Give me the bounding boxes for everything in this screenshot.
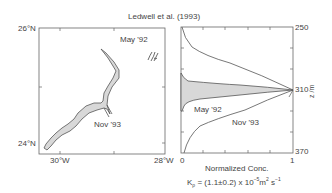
caption-exp3: −1 (275, 176, 281, 182)
nov93-profile-label: Nov '93 (232, 119, 259, 127)
x0-label: 0 (180, 157, 184, 165)
profile-panel (181, 27, 293, 153)
nov93-map-label: Nov '93 (94, 121, 121, 129)
may92-map-label: May '92 (120, 36, 148, 44)
lon-left-label: 30°W (50, 157, 70, 165)
z310-label: 310 (295, 86, 308, 94)
x-axis-label: Normalized Conc. (205, 165, 269, 173)
z250-label: 250 (295, 24, 308, 32)
nov93-filament (44, 49, 119, 150)
z370-label: 370 (295, 148, 308, 156)
caption-m: m (259, 178, 266, 187)
diffusivity-caption: Kρ = (1.1±0.2) x 10−5m2 s−1 (187, 177, 281, 188)
lon-right-label: 28°W (154, 157, 174, 165)
may92-streaks (148, 52, 158, 61)
lat-bottom-label: 24°N (18, 140, 36, 148)
may92-profile-label: May '92 (194, 106, 222, 114)
x1-label: 1 (290, 157, 294, 165)
lat-top-label: 26°N (18, 25, 36, 33)
caption-value: = (1.1±0.2) x 10 (195, 178, 253, 187)
map-panel (39, 28, 165, 154)
z-axis-label: z /m (308, 85, 315, 98)
